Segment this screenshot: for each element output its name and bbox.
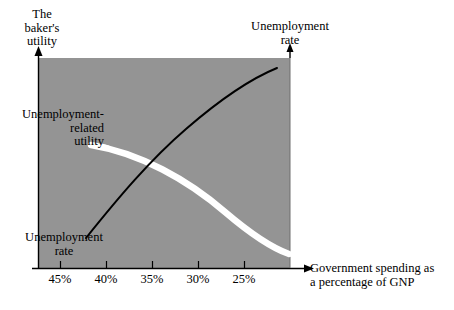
- unemployment-rate-label-top-line2: rate: [281, 33, 300, 47]
- utility-curve-label-line1: Unemployment-: [22, 107, 104, 121]
- x-axis-label-line2: a percentage of GNP: [310, 275, 414, 289]
- x-tick-label-2: 35%: [132, 272, 172, 287]
- utility-curve-label: Unemployment-relatedutility: [18, 108, 104, 149]
- utility-curve-label-line2: related: [70, 121, 104, 135]
- x-axis-label-line1: Government spending as: [310, 261, 434, 275]
- unemployment-rate-label-top: Unemploymentrate: [238, 20, 342, 47]
- unemployment-rate-label-top-line1: Unemployment: [251, 19, 329, 33]
- y-axis-label-line3: utility: [27, 34, 57, 48]
- y-axis-label-line1: The: [32, 7, 51, 21]
- y-axis-label: Thebaker'sutility: [6, 8, 78, 49]
- unemployment-rate-label-bottom-line2: rate: [55, 244, 74, 258]
- x-axis-label: Government spending asa percentage of GN…: [310, 262, 450, 289]
- x-tick-label-3: 30%: [178, 272, 218, 287]
- utility-curve-label-line3: utility: [74, 134, 104, 148]
- chart-figure: Thebaker'sutility Unemployment-relatedut…: [0, 0, 454, 310]
- x-tick-label-4: 25%: [224, 272, 264, 287]
- x-tick-label-1: 40%: [86, 272, 126, 287]
- y-axis-label-line2: baker's: [25, 21, 60, 35]
- x-tick-label-0: 45%: [40, 272, 80, 287]
- unemployment-rate-label-bottom: Unemploymentrate: [22, 231, 106, 258]
- unemployment-rate-label-bottom-line1: Unemployment: [25, 230, 103, 244]
